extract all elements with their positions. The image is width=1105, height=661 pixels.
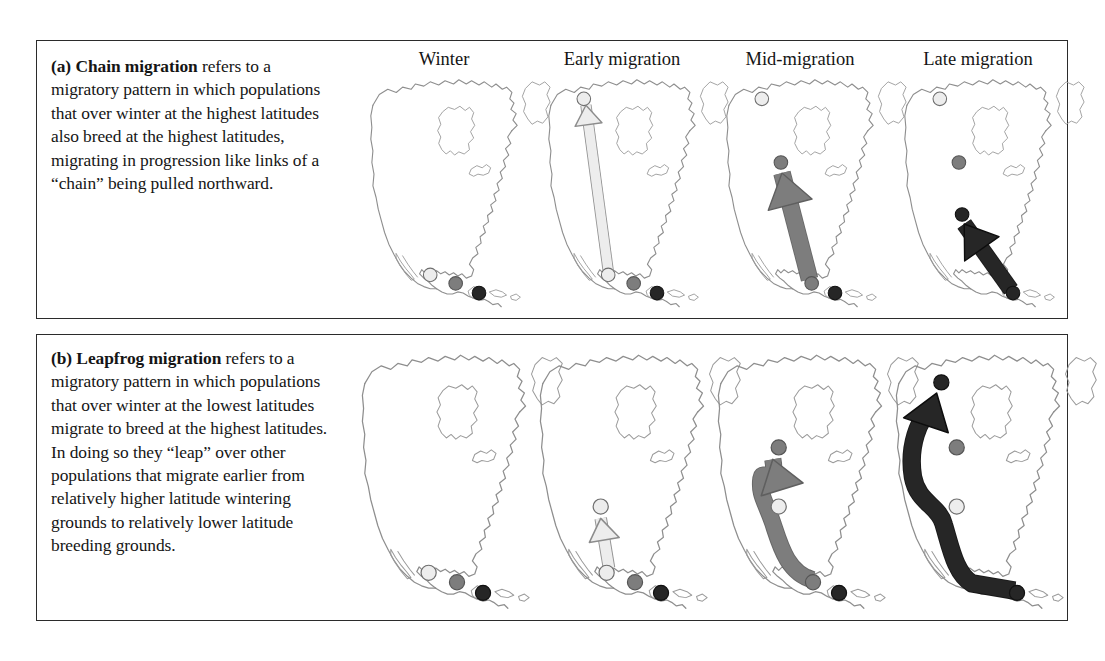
map-svg-leapfrog-late	[889, 341, 1067, 613]
map-svg-leapfrog-mid	[711, 341, 889, 613]
maps-area-a: Winter Early migration Mid-migration Lat…	[355, 41, 1067, 318]
medium-population-dot	[952, 156, 966, 170]
panel-leapfrog-migration: (b) Leapfrog migration refers to a migra…	[36, 334, 1068, 621]
light-population-dot	[599, 565, 614, 580]
dark-population-dot	[650, 286, 664, 300]
light-population-dot	[771, 499, 786, 514]
migration-arrow-group	[768, 173, 812, 279]
migration-arrow-group	[964, 224, 1011, 290]
migration-figure: (a) Chain migration refers to a migrator…	[0, 0, 1105, 661]
map-leapfrog-winter	[355, 341, 533, 613]
medium-population-dot	[805, 575, 820, 590]
light-population-dot	[933, 92, 947, 106]
population-dots	[421, 565, 491, 600]
caption-lead-b: (b) Leapfrog migration	[51, 348, 221, 368]
dark-population-dot	[934, 375, 949, 390]
medium-population-dot	[449, 277, 463, 291]
map-leapfrog-early	[533, 341, 711, 613]
medium-population-dot	[627, 575, 642, 590]
caption-leapfrog-migration: (b) Leapfrog migration refers to a migra…	[37, 335, 355, 620]
map-leapfrog-late	[889, 341, 1067, 613]
population-dots	[771, 440, 846, 601]
light-population-arrow-shaft	[586, 105, 608, 270]
map-svg-chain-mid	[711, 67, 889, 311]
dark-population-arrow-shaft	[912, 410, 1015, 591]
caption-chain-migration: (a) Chain migration refers to a migrator…	[37, 41, 355, 318]
dark-population-dot	[955, 208, 969, 222]
light-population-arrow-head	[589, 518, 619, 542]
migration-arrow-group	[761, 459, 813, 580]
map-svg-leapfrog-early	[533, 341, 711, 613]
light-population-dot	[421, 565, 436, 580]
maps-area-b	[355, 335, 1067, 620]
north-america-outline	[371, 80, 550, 307]
light-population-dot	[601, 268, 615, 282]
map-svg-chain-early	[533, 67, 711, 311]
light-population-dot	[423, 268, 437, 282]
dark-population-dot	[653, 585, 668, 600]
map-chain-early	[533, 67, 711, 311]
light-population-dot	[577, 92, 591, 106]
dark-population-dot	[828, 286, 842, 300]
light-population-arrow-head	[575, 105, 602, 126]
light-population-dot	[593, 499, 608, 514]
dark-population-dot	[475, 585, 490, 600]
caption-rest-a: refers to a migratory pattern in which p…	[51, 56, 320, 193]
medium-population-dot	[449, 575, 464, 590]
population-dots	[423, 268, 485, 300]
migration-arrow-group	[589, 518, 619, 568]
medium-population-dot	[627, 277, 641, 291]
map-chain-mid	[711, 67, 889, 311]
medium-population-dot	[771, 440, 786, 455]
north-america-outline	[896, 355, 1096, 608]
map-svg-leapfrog-winter	[355, 341, 533, 613]
panel-chain-migration: (a) Chain migration refers to a migrator…	[36, 40, 1068, 319]
dark-population-dot	[1006, 286, 1020, 300]
dark-population-dot	[1009, 585, 1024, 600]
map-leapfrog-mid	[711, 341, 889, 613]
caption-rest-b: refers to a migratory pattern in which p…	[51, 348, 327, 555]
medium-population-dot	[774, 156, 788, 170]
map-chain-late	[889, 67, 1067, 311]
dark-population-dot	[472, 286, 486, 300]
map-svg-chain-winter	[355, 67, 533, 311]
map-svg-chain-late	[889, 67, 1067, 311]
migration-arrow-group	[904, 393, 1015, 590]
migration-arrow-group	[575, 105, 608, 270]
north-america-outline	[549, 80, 728, 307]
light-population-dot	[755, 92, 769, 106]
caption-lead-a: (a) Chain migration	[51, 56, 198, 76]
map-chain-winter	[355, 67, 533, 311]
light-population-dot	[949, 499, 964, 514]
medium-population-dot	[805, 277, 819, 291]
medium-population-dot	[949, 440, 964, 455]
dark-population-dot	[831, 585, 846, 600]
